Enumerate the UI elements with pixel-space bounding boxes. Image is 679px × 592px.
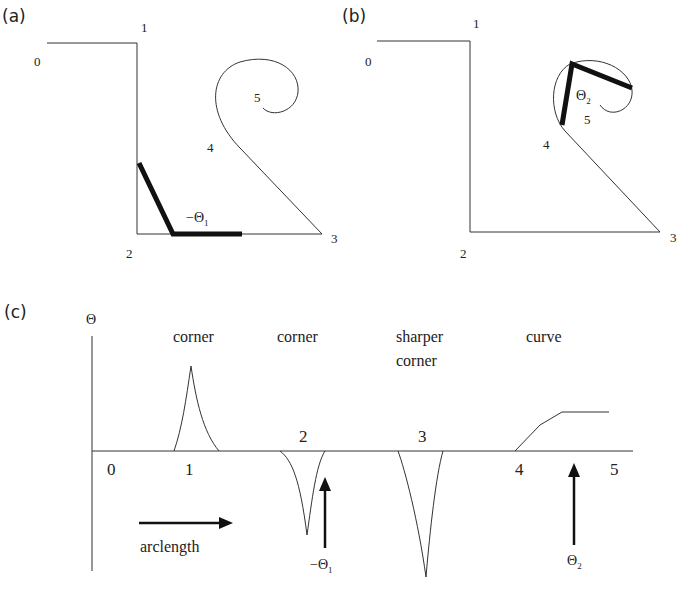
panel-b: (b) 1 0 2 3 4 5 Θ2	[342, 6, 677, 261]
angle-label-theta2: Θ2	[576, 88, 591, 106]
feature-label-sharper-corner: corner	[396, 352, 438, 369]
dip-corner-3	[398, 451, 443, 577]
arclength-arrow-head-icon	[219, 517, 233, 529]
point-label-4: 4	[207, 140, 214, 155]
point-label-1: 1	[141, 20, 148, 35]
x-tick-3: 3	[418, 427, 427, 446]
marker-arrow-theta1-head-icon	[319, 477, 331, 491]
angle-label-neg-theta1: −Θ1	[186, 210, 209, 228]
point-label-1: 1	[473, 16, 480, 31]
x-tick-4: 4	[515, 460, 524, 479]
marker-label-theta2: Θ2	[567, 553, 582, 571]
angle-arms-b	[562, 64, 632, 125]
point-label-0: 0	[34, 54, 41, 69]
contour-a	[47, 43, 322, 234]
figure-canvas: (a) 1 0 2 3 4 5 −Θ1 (b) 1 0 2 3 4 5 Θ2 (…	[0, 0, 679, 592]
panel-a: (a) 1 0 2 3 4 5 −Θ1	[2, 6, 338, 261]
point-label-2: 2	[460, 246, 467, 261]
panel-b-label: (b)	[342, 6, 366, 26]
point-label-5: 5	[254, 90, 261, 105]
point-label-0: 0	[365, 54, 372, 69]
curve-plateau	[515, 412, 609, 451]
x-tick-0: 0	[107, 460, 116, 479]
marker-label-neg-theta1: −Θ1	[310, 557, 333, 575]
y-axis-label: Θ	[86, 312, 96, 327]
feature-label-sharper: sharper	[396, 328, 444, 346]
panel-a-label: (a)	[2, 6, 26, 26]
point-label-4: 4	[543, 137, 550, 152]
contour-b	[377, 41, 660, 232]
x-tick-2: 2	[299, 427, 308, 446]
feature-label-corner-1: corner	[173, 328, 215, 345]
feature-label-curve: curve	[526, 328, 562, 345]
x-tick-5: 5	[610, 460, 619, 479]
point-label-3: 3	[331, 231, 338, 246]
feature-label-corner-2: corner	[277, 328, 319, 345]
point-label-2: 2	[126, 246, 133, 261]
peak-corner-1	[174, 366, 219, 451]
arclength-label: arclength	[140, 538, 200, 556]
marker-arrow-theta2-head-icon	[568, 463, 580, 477]
x-tick-1: 1	[185, 460, 194, 479]
panel-c-label: (c)	[4, 302, 27, 322]
point-label-3: 3	[670, 230, 677, 245]
point-label-5: 5	[584, 112, 591, 127]
dip-corner-2	[280, 451, 325, 535]
panel-c: (c) Θ corner corner sharper corner curve…	[4, 302, 633, 577]
